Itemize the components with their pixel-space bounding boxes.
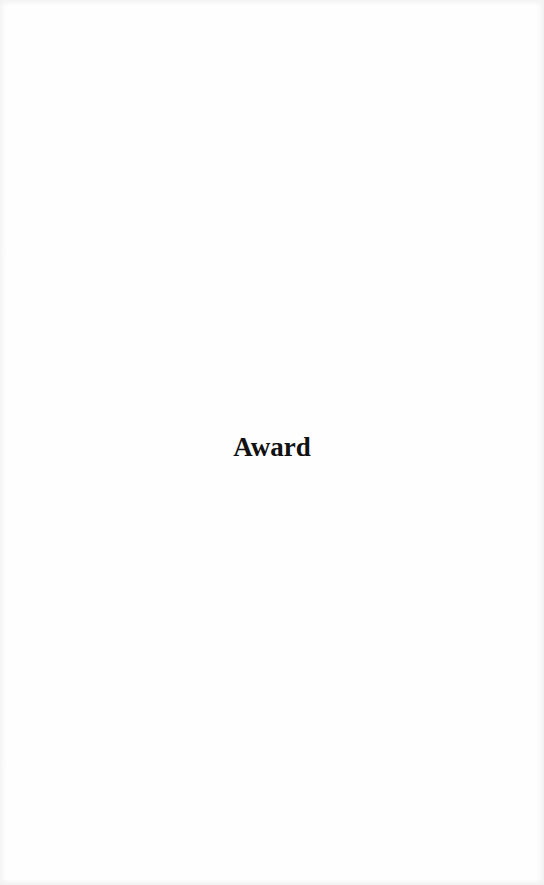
scan-edge-bottom [0, 879, 544, 885]
page-heading: Award [0, 431, 544, 463]
scan-edge-top [0, 0, 544, 6]
document-page: Award [0, 0, 544, 885]
